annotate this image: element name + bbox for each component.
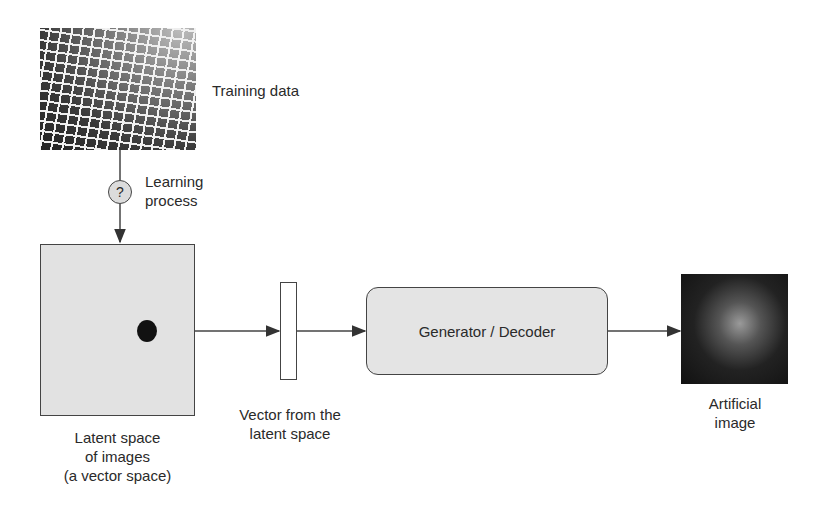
vector-label: Vector from the latent space [210, 405, 370, 443]
latent-vector [280, 282, 297, 380]
latent-point [137, 320, 157, 342]
latent-space-label: Latent space of images (a vector space) [20, 428, 215, 485]
generator-decoder-box: Generator / Decoder [366, 287, 608, 375]
latent-space-box [40, 244, 195, 416]
artificial-image [681, 274, 788, 384]
artificial-image-label: Artificial image [680, 394, 790, 432]
learning-process-label: Learning process [145, 172, 203, 210]
question-mark-icon: ? [108, 180, 132, 204]
training-data-label: Training data [212, 81, 299, 100]
training-data-image [40, 28, 196, 150]
